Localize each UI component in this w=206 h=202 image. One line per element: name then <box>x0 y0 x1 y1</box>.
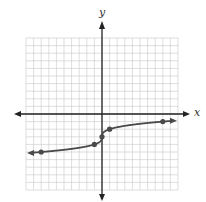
data-point <box>107 127 112 132</box>
y-axis-down-arrow-icon <box>99 194 105 201</box>
data-point <box>99 134 104 139</box>
curve-left-arrow-icon <box>27 150 34 156</box>
data-point <box>39 149 44 154</box>
data-point <box>160 119 165 124</box>
y-axis-up-arrow-icon <box>99 21 105 29</box>
y-axis-label: y <box>99 6 105 19</box>
x-axis-right-arrow-icon <box>183 111 190 117</box>
data-point <box>92 142 97 147</box>
curve-right-arrow-icon <box>170 118 177 124</box>
x-axis-label: x <box>194 106 200 119</box>
graph <box>0 0 206 202</box>
x-axis-left-arrow-icon <box>14 111 21 117</box>
